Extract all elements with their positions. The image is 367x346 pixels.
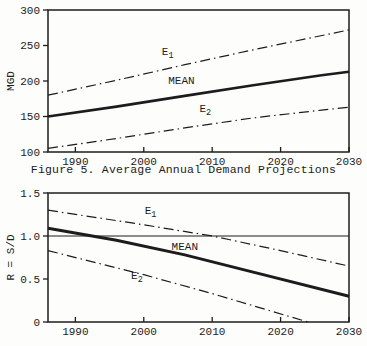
demand-ytick-label-300: 300 [20, 5, 40, 17]
demand-ylabel: MGD [5, 71, 17, 91]
ratio-ytick-label-0: 0 [33, 317, 40, 329]
scanned-figure-page: E1MEANE210015020025030019902000201020202… [0, 0, 367, 346]
demand-E2-label: E2 [199, 103, 211, 118]
ratio-ytick-label-0.5: 0.5 [20, 274, 40, 286]
ratio-xtick-label-2020: 2020 [267, 326, 293, 338]
ratio-ytick-label-1.5: 1.5 [20, 188, 40, 200]
ratio-ylabel: R = S/D [5, 234, 17, 281]
ratio-ytick-label-1.0: 1.0 [20, 231, 40, 243]
ratio-xtick-label-2010: 2010 [199, 326, 225, 338]
ratio-xtick-label-1990: 1990 [62, 326, 88, 338]
ratio-xtick-label-2030: 2030 [336, 326, 362, 338]
demand-ytick-label-150: 150 [20, 111, 40, 123]
demand-plot-box [48, 10, 349, 152]
ratio-E1-label: E1 [145, 205, 157, 220]
demand-ytick-label-100: 100 [20, 147, 40, 159]
ratio-E2-line [48, 251, 308, 322]
chart-ratio: E1MEANE200.51.01.519902000201020202030R … [5, 188, 362, 339]
demand-E1-line [48, 30, 349, 95]
demand-E1-label: E1 [162, 46, 174, 61]
ratio-E2-label: E2 [131, 270, 143, 285]
demand-ytick-label-200: 200 [20, 76, 40, 88]
demand-ytick-label-250: 250 [20, 40, 40, 52]
ratio-xtick-label-2000: 2000 [131, 326, 157, 338]
demand-MEAN-label: MEAN [168, 75, 194, 87]
figure-caption: Figure 5. Average Annual Demand Projecti… [0, 163, 367, 176]
chart-demand: E1MEANE210015020025030019902000201020202… [5, 5, 362, 169]
ratio-MEAN-label: MEAN [172, 241, 198, 253]
